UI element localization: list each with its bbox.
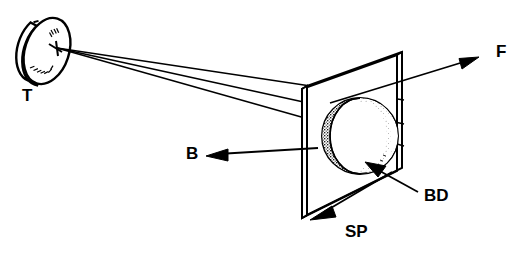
label-forward: F (496, 42, 506, 61)
diagram-background (0, 0, 524, 253)
label-target: T (22, 86, 33, 105)
sample-plate-left-edge-band (302, 86, 307, 218)
label-backward: B (186, 144, 198, 163)
scattering-diagram: T (0, 0, 524, 253)
diagram-canvas: T (0, 0, 524, 253)
target-disc-top-notch (34, 21, 39, 22)
label-sample-plane: SP (345, 222, 368, 241)
label-beam-dump: BD (424, 186, 449, 205)
beam-dump-sphere (322, 98, 400, 174)
